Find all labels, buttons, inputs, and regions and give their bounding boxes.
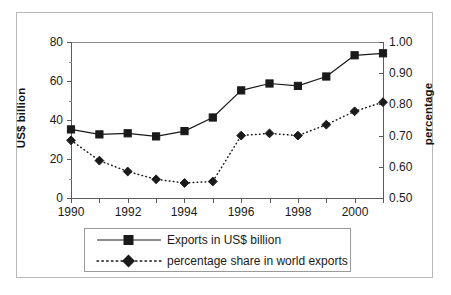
legend-item-share: percentage share in world exports: [85, 250, 350, 272]
data-point-marker: [67, 126, 74, 133]
data-point-marker: [379, 98, 388, 107]
data-point-marker: [152, 175, 161, 184]
legend-key-share-icon: [95, 250, 163, 272]
series-line: [71, 102, 383, 183]
chart-figure: 0204060800.500.600.700.800.901.001990199…: [0, 0, 451, 295]
data-point-marker: [95, 156, 104, 165]
data-point-marker: [265, 129, 274, 138]
legend-item-exports: Exports in US$ billion: [85, 229, 350, 251]
data-point-marker: [208, 177, 217, 186]
data-point-marker: [294, 131, 303, 140]
data-point-marker: [209, 114, 216, 121]
legend-label-exports: Exports in US$ billion: [167, 233, 281, 247]
data-point-marker: [350, 107, 359, 116]
legend-key-exports-icon: [95, 229, 163, 251]
data-point-marker: [180, 179, 189, 188]
chart-legend: Exports in US$ billion percentage share …: [84, 228, 351, 272]
data-point-marker: [181, 128, 188, 135]
legend-label-share: percentage share in world exports: [167, 254, 348, 268]
data-point-marker: [294, 82, 301, 89]
data-point-marker: [123, 167, 132, 176]
data-point-marker: [96, 131, 103, 138]
data-point-marker: [124, 130, 131, 137]
data-point-marker: [323, 73, 330, 80]
data-point-marker: [238, 87, 245, 94]
series-line: [71, 53, 383, 136]
series-share: [67, 98, 388, 188]
data-point-marker: [322, 120, 331, 129]
data-point-marker: [351, 52, 358, 59]
series-exports: [67, 50, 386, 140]
data-point-marker: [237, 131, 246, 140]
data-point-marker: [153, 133, 160, 140]
data-point-marker: [266, 80, 273, 87]
data-point-marker: [379, 50, 386, 57]
